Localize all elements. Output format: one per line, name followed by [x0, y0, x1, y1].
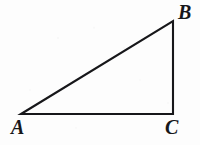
vertex-label-b: B	[178, 2, 191, 22]
geometry-figure-canvas: A B C	[0, 0, 200, 145]
vertex-label-a: A	[11, 117, 24, 137]
vertex-label-c: C	[165, 117, 178, 137]
